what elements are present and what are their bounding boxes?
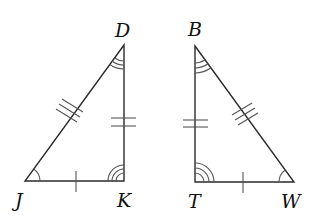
vertex-label-d: D — [114, 19, 130, 41]
vertex-label-j: J — [11, 189, 24, 211]
angle-w-single-arc — [279, 170, 285, 182]
vertex-label-w: W — [281, 190, 302, 212]
side-jd-triple-tick — [56, 99, 83, 122]
angle-k-triple-arc — [108, 165, 124, 181]
angle-j-single-arc — [34, 169, 40, 181]
vertex-label-t: T — [188, 190, 202, 212]
triangle-djk: D J K — [11, 19, 136, 211]
angle-d-double-arc — [110, 58, 124, 69]
angle-b-double-arc — [195, 60, 211, 73]
triangle-btw: B T W — [183, 18, 302, 212]
vertex-label-k: K — [116, 189, 133, 211]
angle-t-triple-arc — [195, 163, 214, 182]
vertex-label-b: B — [187, 18, 202, 40]
congruent-triangles-diagram: D J K B — [0, 0, 311, 222]
side-bw-triple-tick — [232, 103, 258, 125]
